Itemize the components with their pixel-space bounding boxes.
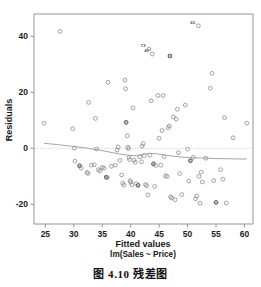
y-axis-tick-label: -20 — [16, 199, 29, 209]
x-axis-tick-label: 50 — [183, 229, 193, 239]
outlier-label: 47 — [144, 48, 149, 53]
scatter-point — [214, 201, 218, 205]
y-axis-title: Residuals — [4, 99, 14, 142]
scatter-point — [189, 159, 193, 163]
x-axis-title: Fitted values — [115, 239, 170, 249]
scatter-point — [136, 183, 140, 187]
x-axis-subtitle: lm(Sales ~ Price) — [110, 250, 176, 259]
y-axis-tick-label: 0 — [23, 143, 28, 153]
figure-container: Residuals vs Fitted 724743 2530354045505… — [0, 0, 261, 287]
residuals-vs-fitted-chart: 724743 2530354045505560 -2002040 Fitted … — [0, 0, 261, 262]
figure-caption: 图 4.10 残差图 — [0, 265, 261, 281]
scatter-point — [124, 120, 128, 124]
x-axis-tick-label: 55 — [211, 229, 221, 239]
scatter-point — [168, 54, 172, 58]
y-axis-tick-label: 20 — [19, 87, 29, 97]
y-axis-tick-label: 40 — [19, 31, 29, 41]
outlier-label: 43 — [190, 20, 195, 25]
plot-background — [0, 0, 261, 262]
x-axis-tick-label: 40 — [126, 229, 136, 239]
x-axis-tick-label: 30 — [69, 229, 79, 239]
x-axis-tick-label: 45 — [154, 229, 164, 239]
x-axis-tick-label: 60 — [240, 229, 250, 239]
x-axis-tick-label: 25 — [41, 229, 51, 239]
x-axis-tick-label: 35 — [98, 229, 108, 239]
